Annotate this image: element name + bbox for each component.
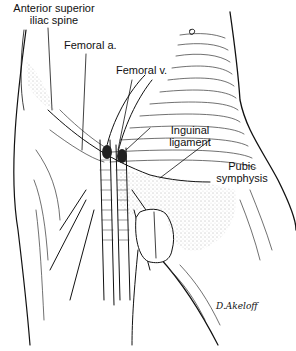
label-asis-line2: iliac spine bbox=[0, 14, 108, 26]
label-inguinal-line2: ligament bbox=[160, 136, 220, 148]
label-inguinal-line1: Inguinal bbox=[160, 124, 220, 136]
label-femoral-artery: Femoral a. bbox=[64, 39, 117, 51]
label-femoral-vein: Femoral v. bbox=[116, 64, 167, 76]
right-body-outline bbox=[230, 12, 296, 230]
label-asis-line1: Anterior superior bbox=[0, 2, 108, 14]
artist-signature: D.Akeloff bbox=[216, 300, 258, 312]
label-pubic-line2: symphysis bbox=[212, 172, 272, 184]
label-pubic-line1: Pubic bbox=[212, 160, 272, 172]
